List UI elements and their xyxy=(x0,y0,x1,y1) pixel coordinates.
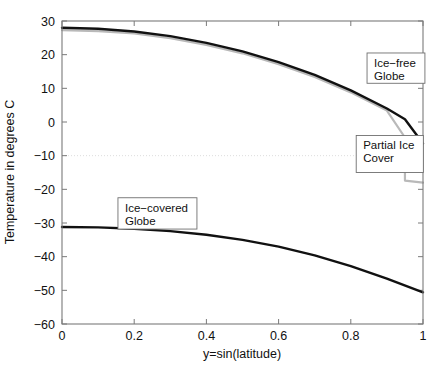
y-tick-label: 10 xyxy=(41,82,55,96)
temperature-vs-latitude-chart: 3020100−10−20−30−40−50−60 00.20.40.60.81… xyxy=(0,0,443,366)
x-tick-label: 0.6 xyxy=(270,329,287,343)
x-tick-label: 0.8 xyxy=(342,329,359,343)
annotation-ice-covered-globe: Ice−covered Globe xyxy=(118,198,197,229)
y-tick-label: −30 xyxy=(34,217,55,231)
x-tick-label: 1 xyxy=(420,329,427,343)
x-axis-title: y=sin(latitude) xyxy=(203,347,281,361)
figure-container: 3020100−10−20−30−40−50−60 00.20.40.60.81… xyxy=(0,0,443,366)
annotation-ice-free-globe: Ice−free Globe xyxy=(367,53,425,83)
x-tick-label: 0 xyxy=(59,329,66,343)
annotation-ice-covered-line1: Ice−covered xyxy=(125,202,188,214)
annotation-ice-free-line1: Ice−free xyxy=(374,57,416,69)
y-tick-label: 20 xyxy=(41,48,55,62)
x-tick-label: 0.2 xyxy=(126,329,143,343)
annotation-partial-ice-cover: Partial Ice Cover xyxy=(356,135,423,172)
annotation-ice-covered-line2: Globe xyxy=(125,215,156,227)
y-tick-label: 0 xyxy=(48,116,55,130)
x-axis-tick-labels: 00.20.40.60.81 xyxy=(59,329,427,343)
y-tick-label: −40 xyxy=(34,250,55,264)
y-axis-tick-labels: 3020100−10−20−30−40−50−60 xyxy=(34,15,55,332)
annotation-partial-ice-line2: Cover xyxy=(363,152,394,164)
y-tick-label: −20 xyxy=(34,183,55,197)
x-tick-label: 0.4 xyxy=(198,329,215,343)
y-tick-label: −10 xyxy=(34,149,55,163)
y-tick-label: −50 xyxy=(34,284,55,298)
y-tick-label: 30 xyxy=(41,15,55,29)
annotation-ice-free-line2: Globe xyxy=(374,70,405,82)
annotation-partial-ice-line1: Partial Ice xyxy=(363,139,414,151)
y-axis-title: Temperature in degrees C xyxy=(3,100,17,245)
y-tick-label: −60 xyxy=(34,318,55,332)
